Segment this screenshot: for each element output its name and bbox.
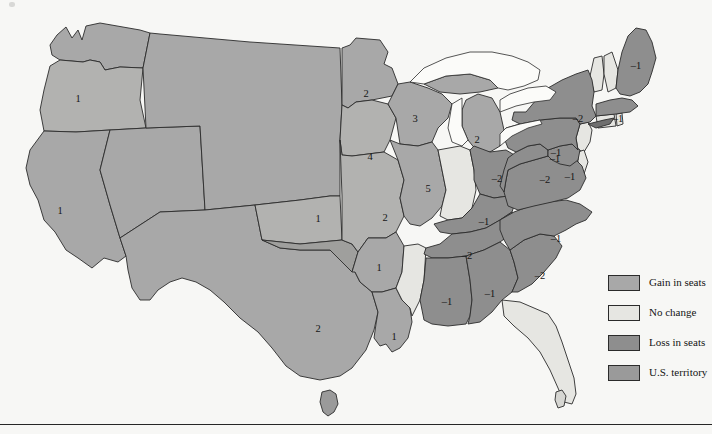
legend-label-nochange: No change — [649, 307, 696, 318]
legend-label-loss: Loss in seats — [649, 337, 705, 348]
state-oregon[interactable] — [40, 60, 146, 132]
state-massachusetts[interactable] — [596, 98, 638, 116]
state-florida[interactable] — [502, 300, 576, 404]
map-legend: Gain in seats No change Loss in seats U.… — [608, 272, 712, 390]
legend-swatch-nochange — [608, 305, 640, 321]
legend-swatch-gain — [608, 275, 640, 291]
legend-item-loss[interactable]: Loss in seats — [608, 334, 705, 351]
state-iowa[interactable] — [340, 100, 396, 156]
territory-puerto-rico[interactable] — [320, 390, 338, 416]
legend-label-territory: U.S. territory — [649, 367, 707, 378]
legend-swatch-territory — [608, 365, 640, 381]
bottom-divider — [0, 424, 712, 425]
state-minnesota[interactable] — [342, 38, 398, 108]
us-choropleth-map: 1 1 1 2 2 4 2 1 1 3 5 2 –2 –1 –2 –1 –1 –… — [0, 0, 712, 434]
legend-item-gain[interactable]: Gain in seats — [608, 274, 706, 291]
legend-label-gain: Gain in seats — [649, 277, 706, 288]
legend-swatch-loss — [608, 335, 640, 351]
map-figure: 1 1 1 2 2 4 2 1 1 3 5 2 –2 –1 –2 –1 –1 –… — [0, 0, 712, 434]
legend-item-nochange[interactable]: No change — [608, 304, 696, 321]
map-regions — [26, 23, 656, 416]
state-maine[interactable] — [616, 28, 656, 96]
state-alabama[interactable] — [420, 256, 472, 326]
state-rhodeisland[interactable] — [616, 113, 623, 126]
state-kansas[interactable] — [255, 196, 342, 244]
legend-item-territory[interactable]: U.S. territory — [608, 364, 707, 381]
state-michigan-lower[interactable] — [462, 94, 504, 152]
